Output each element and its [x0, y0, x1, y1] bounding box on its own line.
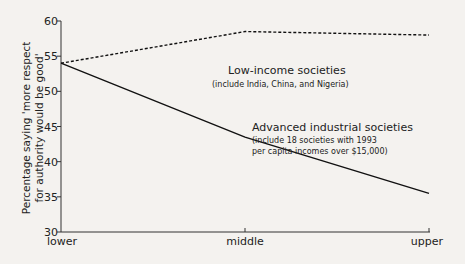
y-axis-label-line2: for authority would be good': [33, 53, 45, 202]
x-tick-label: middle: [226, 235, 264, 248]
y-tick-label: 40: [44, 156, 58, 169]
chart: 30354045505560 lowermiddleupper Percenta…: [0, 0, 465, 264]
annotation-advanced-note-line1: (include 18 societies with 1993: [252, 136, 377, 145]
annotation-advanced-note-line2: per capita incomes over $15,000): [252, 147, 388, 156]
y-tick-label: 60: [44, 15, 58, 28]
x-ticks: lowermiddleupper: [47, 228, 443, 248]
x-tick-label: lower: [47, 235, 78, 248]
annotation-low-income-title: Low-income societies: [228, 64, 346, 77]
annotation-advanced-title: Advanced industrial societies: [252, 121, 413, 134]
y-tick-label: 50: [44, 85, 58, 98]
annotation-low-income-note: (include India, China, and Nigeria): [212, 80, 349, 89]
series-low-income-line: [61, 32, 429, 64]
x-tick-label: upper: [411, 235, 444, 248]
y-axis-label-line1: Percentage saying 'more respect: [20, 42, 32, 215]
y-tick-label: 55: [44, 50, 58, 63]
y-tick-label: 35: [44, 191, 58, 204]
y-tick-label: 45: [44, 121, 58, 134]
y-ticks: 30354045505560: [44, 15, 61, 239]
